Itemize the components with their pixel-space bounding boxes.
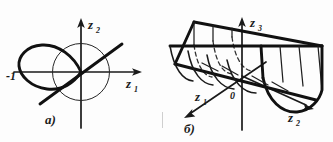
- z1-axis-label: z 1: [194, 89, 207, 107]
- figure-panel-b: z 3 z 1 z 2 0 б): [166, 0, 333, 142]
- figure-page: z 2 z 1 -1 а): [0, 0, 333, 142]
- svg-text:1: 1: [134, 85, 138, 94]
- svg-text:z: z: [87, 17, 94, 32]
- svg-text:2: 2: [295, 119, 300, 128]
- parabolic-trough: [263, 46, 322, 112]
- panel-b-caption: б): [184, 121, 195, 136]
- origin-label: 0: [230, 90, 235, 101]
- vertical-axis-b: [238, 17, 246, 130]
- svg-text:1: 1: [203, 98, 207, 107]
- front-parabolas: [170, 46, 256, 93]
- svg-text:2: 2: [95, 26, 100, 35]
- panel-a-caption: а): [45, 112, 56, 127]
- svg-text:z: z: [249, 15, 256, 30]
- horizontal-axis-label: z 1: [125, 76, 138, 94]
- svg-text:z: z: [287, 110, 294, 125]
- z3-axis-label: z 3: [249, 15, 262, 33]
- figure-panel-a: z 2 z 1 -1 а): [0, 0, 166, 142]
- svg-text:z: z: [194, 89, 201, 104]
- svg-text:3: 3: [257, 24, 262, 33]
- loop-curve: [19, 45, 81, 89]
- svg-text:z: z: [125, 76, 132, 91]
- parabolic-trough-edge: [261, 46, 263, 78]
- vertical-axis-label: z 2: [87, 17, 100, 35]
- rim-edge-left: [175, 22, 194, 64]
- x-intercept-label: -1: [6, 69, 16, 83]
